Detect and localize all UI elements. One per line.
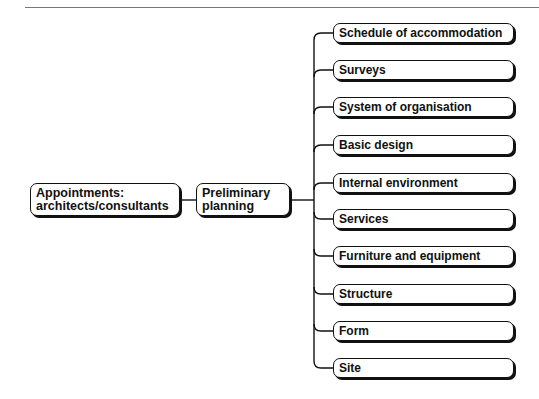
branch-label: Structure bbox=[339, 288, 392, 301]
branch-basic-design: Basic design bbox=[333, 135, 514, 155]
branch-furniture-and-equipment: Furniture and equipment bbox=[333, 246, 514, 266]
branch-label: System of organisation bbox=[339, 101, 472, 114]
branch-internal-environment: Internal environment bbox=[333, 173, 514, 193]
branch-schedule-of-accommodation: Schedule of accommodation bbox=[333, 23, 514, 43]
branch-services: Services bbox=[333, 209, 514, 229]
node-preliminary-line2: planning bbox=[202, 200, 254, 213]
branch-label: Services bbox=[339, 213, 388, 226]
branch-label: Internal environment bbox=[339, 177, 458, 190]
branch-form: Form bbox=[333, 321, 514, 341]
node-preliminary-planning: Preliminary planning bbox=[196, 183, 290, 216]
node-preliminary-line1: Preliminary bbox=[202, 187, 270, 200]
branch-label: Basic design bbox=[339, 139, 413, 152]
branch-system-of-organisation: System of organisation bbox=[333, 97, 514, 117]
node-appointments: Appointments: architects/consultants bbox=[30, 183, 180, 216]
node-appointments-line1: Appointments: bbox=[36, 187, 124, 200]
branch-label: Schedule of accommodation bbox=[339, 27, 502, 40]
branch-site: Site bbox=[333, 358, 514, 378]
branch-label: Surveys bbox=[339, 64, 386, 77]
branch-label: Site bbox=[339, 362, 361, 375]
branch-surveys: Surveys bbox=[333, 60, 514, 80]
branch-label: Form bbox=[339, 325, 369, 338]
node-appointments-line2: architects/consultants bbox=[36, 200, 169, 213]
branch-label: Furniture and equipment bbox=[339, 250, 480, 263]
branch-structure: Structure bbox=[333, 284, 514, 304]
